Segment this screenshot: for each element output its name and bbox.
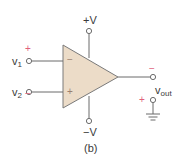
- input-2-subscript: 2: [18, 91, 22, 100]
- input-1-label: v1: [12, 56, 22, 69]
- output-terminal: [150, 74, 155, 79]
- positive-supply-terminal: [86, 28, 91, 33]
- output-bottom-sign: +: [139, 95, 145, 105]
- output-label: vout: [155, 85, 172, 98]
- output-top-sign: −: [149, 64, 155, 74]
- input-2-label: v2: [12, 87, 22, 100]
- inverting-pin-sign: −: [67, 55, 73, 65]
- positive-supply-label: +V: [83, 15, 97, 26]
- negative-supply-terminal: [86, 118, 91, 123]
- ground-icon: [146, 103, 160, 120]
- input-1-subscript: 1: [18, 60, 22, 69]
- input-1-outer-sign: +: [25, 44, 31, 54]
- figure-caption: (b): [84, 143, 97, 154]
- noninverting-pin-sign: +: [67, 87, 73, 97]
- input-1-terminal: [26, 58, 31, 63]
- negative-supply-label: −V: [83, 127, 97, 138]
- input-2-outer-sign: −: [25, 89, 31, 99]
- output-subscript: out: [161, 89, 172, 98]
- ground-terminal: [150, 97, 155, 102]
